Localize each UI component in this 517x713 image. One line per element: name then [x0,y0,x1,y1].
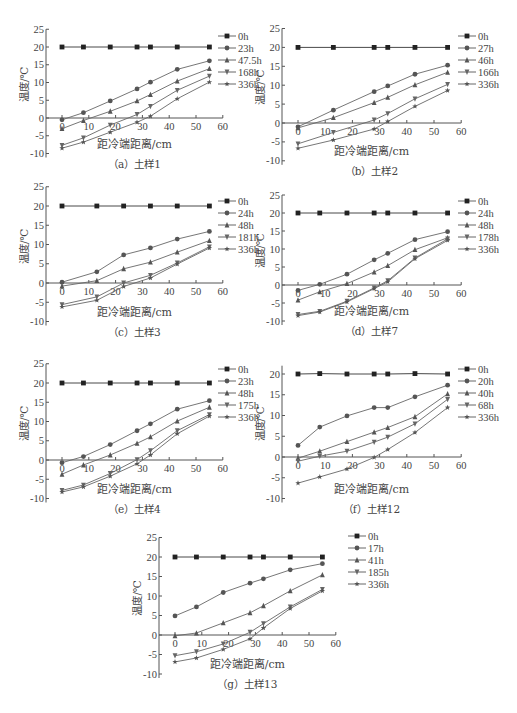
x-tick-label: 0 [172,638,177,649]
legend-item: 185h [348,567,390,578]
legend-label: 166h [478,67,500,78]
x-tick-label: 40 [402,126,413,137]
y-tick-label: 20 [34,201,45,212]
x-tick-label: 50 [304,638,315,649]
series-336h [295,405,450,486]
y-tick-label: 20 [270,42,281,53]
y-axis-label: 温度/℃ [254,233,266,269]
y-tick-label: -10 [266,155,280,166]
y-tick-label: 20 [270,208,281,219]
chart-panel-g: -10-50510152025温度/℃0102030405060距冷端距离/cm… [120,520,378,710]
series-17h [173,561,325,618]
x-axis-label: 距冷端距离/cm [334,304,410,318]
y-tick-label: -5 [271,136,280,147]
x-tick-label: 60 [218,463,229,474]
legend-item: 336h [458,79,500,90]
legend-label: 24h [238,208,255,219]
y-tick-label: 0 [39,113,44,124]
x-tick-label: 40 [164,286,175,297]
y-tick-label: -10 [30,148,44,159]
legend-item: 48h [218,220,255,231]
x-tick-label: 60 [218,286,229,297]
chart-caption: （a）土样1 [108,158,161,170]
legend-item: 0h [218,196,249,207]
legend-item: 0h [458,364,489,375]
legend-item: 0h [458,31,489,42]
legend-item: 41h [348,555,385,566]
y-tick-label: 10 [270,410,281,421]
x-axis-label: 距冷端距离/cm [97,305,173,319]
y-axis: -10-50510152025 [143,532,162,680]
series-336h [172,588,325,664]
chart-panel-e: -10-50510152025温度/℃0102030405060距冷端距离/cm… [0,355,258,545]
y-tick-label: 20 [34,42,45,53]
series-175h [60,412,212,493]
legend-item: 40h [458,388,495,399]
chart-panel-a: -10-50510152025温度/℃0102030405060距冷端距离/cm… [0,0,258,190]
legend-item: 24h [218,208,255,219]
legend-label: 0h [238,196,249,207]
legend-item: 23h [218,43,255,54]
y-tick-label: 5 [39,435,44,446]
legend-label: 0h [478,196,489,207]
legend-label: 0h [368,531,379,542]
series-0h [296,45,450,50]
series-0h [60,381,212,386]
y-tick-label: 10 [34,416,45,427]
y-tick-label: 15 [270,61,281,72]
legend-item: 48h [218,388,255,399]
legend-label: 17h [368,543,385,554]
x-tick-label: 50 [191,121,202,132]
y-tick-label: 15 [34,397,45,408]
y-tick-label: -5 [35,297,44,308]
legend-label: 336h [478,244,500,255]
y-axis: -10-50510152025 [266,23,285,166]
y-tick-label: 0 [275,118,280,129]
series-0h [296,371,450,376]
legend-label: 20h [478,376,495,387]
legend-label: 27h [478,43,495,54]
y-axis: -10-50510152025 [30,24,49,159]
legend-item: 68h [458,400,495,411]
y-axis: -10-50510152025 [30,181,49,327]
legend-label: 0h [238,31,249,42]
y-tick-label: 15 [270,226,281,237]
y-tick-label: 0 [275,452,280,463]
legend-item: 0h [218,31,249,42]
y-tick-label: 25 [270,190,281,201]
x-tick-label: 10 [197,638,208,649]
y-tick-label: 25 [147,532,158,543]
y-tick-label: 25 [34,181,45,192]
legend-item: 48h [458,220,495,231]
legend-label: 185h [368,567,390,578]
legend-item: 166h [458,67,500,78]
x-tick-label: 30 [137,286,148,297]
y-tick-label: 5 [275,431,280,442]
series-24h [296,229,450,292]
legend-label: 336h [368,579,390,590]
y-axis-label: 温度/℃ [18,406,30,442]
y-tick-label: 0 [275,280,280,291]
chart-caption: （e）土样4 [108,503,161,515]
y-tick-label: 5 [39,95,44,106]
x-tick-label: 50 [191,286,202,297]
series-0h [173,555,325,560]
y-tick-label: 25 [34,358,45,369]
x-tick-label: 60 [456,288,467,299]
legend-item: 178h [458,232,500,243]
y-tick-label: 15 [147,571,158,582]
y-axis: -10-50510152025 [30,358,49,504]
legend-label: 0h [478,364,489,375]
x-tick-label: 40 [164,463,175,474]
chart-panel-c: -10-50510152025温度/℃0102030405060距冷端距离/cm… [0,190,258,380]
y-axis-label: 温度/℃ [18,229,30,265]
legend-label: 23h [238,43,255,54]
y-tick-label: 25 [270,23,281,34]
legend-item: 0h [348,531,379,542]
y-tick-label: -5 [35,474,44,485]
legend-label: 48h [238,220,255,231]
x-tick-label: 60 [218,121,229,132]
y-tick-label: 10 [270,80,281,91]
x-tick-label: 50 [429,460,440,471]
y-tick-label: -10 [143,669,157,680]
